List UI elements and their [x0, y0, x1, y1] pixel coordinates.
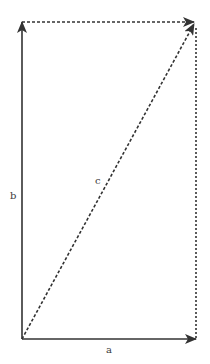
label-c: c [95, 175, 101, 186]
vector-diagram: b c a [0, 0, 210, 364]
label-b: b [10, 190, 16, 201]
label-a: a [106, 344, 112, 355]
vector-c [22, 24, 194, 339]
